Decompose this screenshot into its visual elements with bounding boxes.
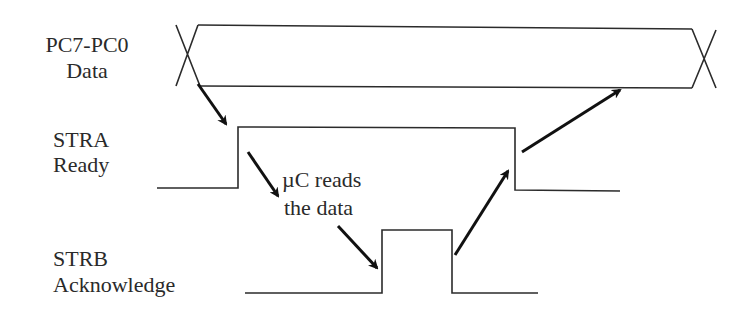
arrow-stra-to-read — [248, 152, 278, 196]
arrow-stra-to-data — [522, 90, 620, 152]
data-signal-description: Data — [66, 58, 108, 83]
data-bus-top-line — [198, 25, 692, 29]
annotation-line-2: the data — [284, 195, 353, 220]
arrow-read-to-strb — [338, 226, 377, 268]
data-bus-bottom-line — [200, 86, 692, 88]
data-bus-right-transition — [692, 29, 716, 88]
strb-signal-name: STRB — [53, 246, 108, 271]
stra-signal-description: Ready — [53, 152, 109, 177]
annotation-line-1: µC reads — [282, 167, 361, 192]
data-signal-name: PC7-PC0 — [45, 32, 128, 57]
arrow-data-to-stra — [198, 84, 226, 124]
strb-waveform — [245, 230, 538, 293]
data-bus-waveform — [176, 25, 716, 88]
arrow-strb-to-stra — [455, 171, 508, 255]
stra-signal-name: STRA — [53, 127, 109, 152]
data-bus-left-transition — [176, 25, 200, 86]
stra-waveform — [157, 127, 620, 191]
strb-signal-description: Acknowledge — [53, 272, 175, 297]
timing-diagram: PC7-PC0 Data STRA Ready STRB Acknowledge… — [0, 0, 749, 318]
